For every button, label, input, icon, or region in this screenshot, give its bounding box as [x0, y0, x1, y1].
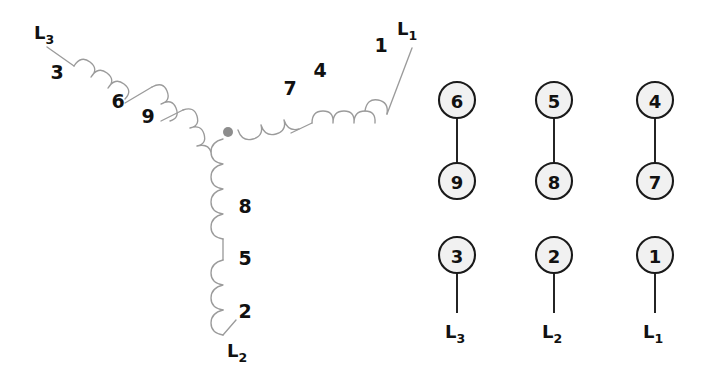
terminal-3-line-sub: 3 — [456, 331, 465, 346]
terminal-label-6: 6 — [451, 91, 464, 112]
branch-l1-label-1: 1 — [374, 34, 387, 56]
branch-l3: 3 6 9 L3 — [34, 22, 211, 152]
branch-l1-coil-7 — [238, 120, 299, 140]
pair-6-9: 6 9 — [439, 82, 475, 199]
terminal-1: 1 L1 — [637, 237, 673, 346]
branch-l1-line-sub: 1 — [408, 28, 417, 43]
terminal-2-line-sub: 2 — [553, 331, 562, 346]
terminal-1-line-letter: L — [643, 321, 654, 342]
terminal-label-9: 9 — [451, 172, 464, 193]
terminal-2: 2 L2 — [536, 237, 572, 346]
pair-4-7: 4 7 — [637, 82, 673, 199]
branch-l3-line-sub: 3 — [45, 32, 54, 47]
branch-l1-coil-4 — [312, 111, 375, 123]
branch-l2-label-5: 5 — [238, 247, 251, 269]
branch-l1-label-7: 7 — [283, 77, 296, 99]
terminal-2-line-letter: L — [542, 321, 553, 342]
branch-l3-link-b — [161, 110, 183, 121]
terminal-1-line-sub: 1 — [654, 331, 663, 346]
terminal-2-line-label: L2 — [542, 321, 562, 346]
terminal-3-line-label: L3 — [445, 321, 465, 346]
branch-l2-line-letter: L — [227, 340, 238, 361]
branch-l3-line-letter: L — [34, 22, 45, 43]
branch-l2-line-label: L2 — [227, 340, 247, 365]
branch-l2-lead — [223, 320, 236, 335]
branch-l2-coil-2 — [211, 310, 223, 335]
branch-l1-label-4: 4 — [313, 59, 326, 81]
branch-l2-line-sub: 2 — [238, 350, 247, 365]
diagram-canvas: 3 6 9 L3 7 4 1 L1 — [0, 0, 707, 377]
terminal-label-5: 5 — [548, 91, 561, 112]
branch-l3-coil-9 — [183, 109, 211, 152]
branch-l2: 8 5 2 L2 — [211, 139, 252, 365]
terminal-label-8: 8 — [548, 172, 561, 193]
branch-l1-line-letter: L — [397, 18, 408, 39]
branch-l2-coil-8 — [211, 139, 223, 239]
branch-l2-label-2: 2 — [238, 300, 251, 322]
branch-l3-line-label: L3 — [34, 22, 54, 47]
winding-diagram: 3 6 9 L3 7 4 1 L1 — [0, 0, 707, 377]
terminal-label-4: 4 — [649, 91, 662, 112]
branch-l1-lead — [387, 48, 412, 114]
branch-l3-label-3: 3 — [50, 61, 63, 83]
pair-5-8: 5 8 — [536, 82, 572, 199]
branch-l1-line-label: L1 — [397, 18, 417, 43]
terminal-1-line-label: L1 — [643, 321, 663, 346]
star-point-node — [223, 127, 233, 137]
terminal-label-1: 1 — [649, 246, 662, 267]
terminal-label-3: 3 — [451, 246, 464, 267]
star-winding-group: 3 6 9 L3 7 4 1 L1 — [34, 18, 417, 365]
terminal-label-7: 7 — [649, 172, 662, 193]
terminal-3-line-letter: L — [445, 321, 456, 342]
terminal-block-group: 6 9 5 8 4 7 3 L3 — [439, 82, 673, 346]
branch-l2-label-8: 8 — [238, 195, 251, 217]
branch-l1: 7 4 1 L1 — [238, 18, 417, 140]
branch-l2-coil-5 — [211, 260, 223, 310]
terminal-3: 3 L3 — [439, 237, 475, 346]
branch-l3-label-6: 6 — [111, 90, 124, 112]
branch-l3-label-9: 9 — [141, 105, 154, 127]
branch-l1-link-a — [291, 123, 312, 133]
terminal-label-2: 2 — [548, 246, 561, 267]
